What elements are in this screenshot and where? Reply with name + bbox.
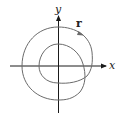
x-axis-label: x [109, 59, 116, 72]
curve-label: r [76, 17, 82, 30]
y-axis-label: y [54, 3, 62, 16]
curve-r [22, 27, 92, 100]
diagram-canvas: y x r [0, 0, 125, 121]
